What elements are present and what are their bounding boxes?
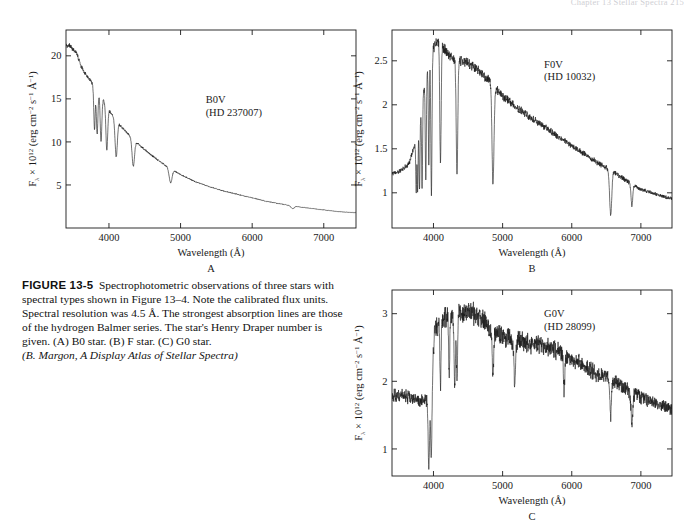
x-tick-label: 5000 <box>170 232 191 243</box>
x-tick-label: 4000 <box>98 232 119 243</box>
y-tick-label: 3 <box>382 308 387 319</box>
hd-number-label: (HD 237007) <box>206 107 263 119</box>
panel-letter: A <box>207 263 215 274</box>
plot-frame <box>392 290 672 476</box>
panel-c-plot: 4000500060007000123G0V(HD 28099)Waveleng… <box>346 276 684 524</box>
y-tick-label: 2 <box>382 376 387 387</box>
x-tick-label: 7000 <box>313 232 334 243</box>
y-tick-label: 15 <box>51 93 62 104</box>
x-tick-label: 6000 <box>242 232 263 243</box>
hd-number-label: (HD 10032) <box>544 71 596 83</box>
y-tick-label: 1 <box>382 187 387 198</box>
y-tick-label: 5 <box>56 180 61 191</box>
x-tick-label: 4000 <box>423 480 444 491</box>
x-tick-label: 5000 <box>492 480 513 491</box>
spectral-type-label: B0V <box>206 94 226 105</box>
y-tick-label: 20 <box>51 50 62 61</box>
plot-frame <box>392 30 672 228</box>
panel-a-plot: 40005000600070005101520B0V(HD 237007)Wav… <box>18 14 368 276</box>
hd-number-label: (HD 28099) <box>544 321 596 333</box>
x-tick-label: 4000 <box>423 232 444 243</box>
panel-b: 400050006000700011.522.5F0V(HD 10032)Wav… <box>346 14 684 276</box>
x-tick-label: 5000 <box>492 232 513 243</box>
running-head: Chapter 13 Stellar Spectra 215 <box>400 0 684 9</box>
figure-caption: FIGURE 13-5 Spectrophotometric observati… <box>22 278 352 363</box>
spectrum-trace <box>392 38 672 215</box>
panel-letter: C <box>528 511 535 522</box>
x-tick-label: 7000 <box>630 232 651 243</box>
panel-a: 40005000600070005101520B0V(HD 237007)Wav… <box>18 14 368 276</box>
x-tick-label: 7000 <box>630 480 651 491</box>
spectrum-trace <box>66 43 356 212</box>
panel-letter: B <box>528 263 535 274</box>
spectral-type-label: F0V <box>544 59 563 70</box>
spectrum-trace <box>392 302 672 470</box>
y-tick-label: 1.5 <box>374 143 387 154</box>
caption-credit: (B. Margon, A Display Atlas of Stellar S… <box>22 349 238 361</box>
spectral-type-label: G0V <box>544 308 565 319</box>
panel-b-plot: 400050006000700011.522.5F0V(HD 10032)Wav… <box>346 14 684 276</box>
x-axis-label: Wavelength (Å) <box>177 247 245 259</box>
figure-label: FIGURE 13-5 <box>22 279 93 291</box>
y-tick-label: 2.5 <box>374 55 387 66</box>
y-tick-label: 1 <box>382 444 387 455</box>
y-tick-label: 10 <box>51 137 62 148</box>
y-tick-label: 2 <box>382 99 387 110</box>
x-axis-label: Wavelength (Å) <box>498 247 566 259</box>
x-axis-label: Wavelength (Å) <box>498 495 566 507</box>
x-tick-label: 6000 <box>561 480 582 491</box>
plot-frame <box>66 30 356 228</box>
y-axis-label: Fλ × 1012 (erg cm−2 s−1 Å−1) <box>353 71 367 187</box>
y-axis-label: Fλ × 1012 (erg cm−2 s−1 Å−1) <box>353 325 367 441</box>
figure-page: Chapter 13 Stellar Spectra 215 400050006… <box>0 0 684 524</box>
x-tick-label: 6000 <box>561 232 582 243</box>
y-axis-label: Fλ × 1012 (erg cm−2 s−1 Å−1) <box>27 71 41 187</box>
panel-c: 4000500060007000123G0V(HD 28099)Waveleng… <box>346 276 684 524</box>
